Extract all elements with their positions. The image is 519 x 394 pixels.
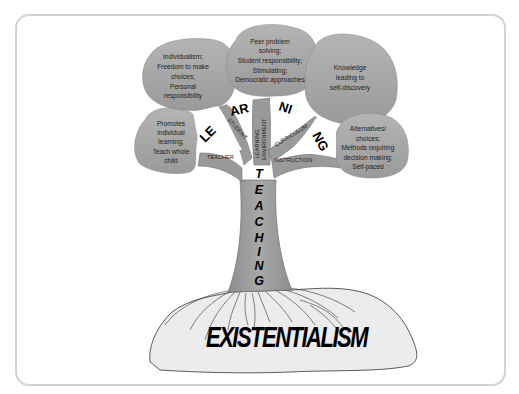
branch-label-instruction: INSTRUCTION <box>274 157 312 163</box>
svg-text:child: child <box>164 157 178 164</box>
svg-text:T: T <box>255 167 264 181</box>
svg-text:choices;: choices; <box>356 135 380 142</box>
svg-text:learning;: learning; <box>158 138 183 146</box>
branch-label-learning: LEARNING <box>254 129 260 158</box>
svg-text:self-discovery: self-discovery <box>330 84 371 92</box>
svg-text:Alternatives/: Alternatives/ <box>350 125 386 132</box>
svg-text:A: A <box>253 199 263 213</box>
svg-text:Peer problem: Peer problem <box>250 38 290 46</box>
svg-text:Stimulating;: Stimulating; <box>253 67 288 75</box>
svg-text:H: H <box>254 231 264 245</box>
svg-text:Freedom to make: Freedom to make <box>157 63 209 70</box>
svg-text:individual: individual <box>157 129 185 136</box>
svg-text:solving;: solving; <box>259 47 282 55</box>
svg-text:Promotes: Promotes <box>157 120 186 127</box>
svg-text:Student responsibility;: Student responsibility; <box>238 57 303 65</box>
roots-label-existentialism: EXISTENTIALISM <box>206 321 369 352</box>
svg-text:G: G <box>254 274 264 288</box>
svg-text:leading to: leading to <box>336 74 365 82</box>
svg-text:Teach whole: Teach whole <box>153 148 190 155</box>
svg-text:I: I <box>257 245 261 259</box>
svg-text:Democratic approaches: Democratic approaches <box>235 76 305 84</box>
branch-label-environment: ENVIRONMENT <box>261 118 267 160</box>
svg-text:Personal: Personal <box>170 83 197 90</box>
svg-text:C: C <box>254 215 264 229</box>
svg-text:Methods requiring: Methods requiring <box>342 144 395 152</box>
svg-text:E: E <box>255 183 264 197</box>
svg-text:Self-paced: Self-paced <box>352 163 384 171</box>
svg-text:N: N <box>254 259 264 273</box>
svg-text:choices;: choices; <box>171 73 195 80</box>
trunk-label-teaching: T E A C H I N G <box>253 167 264 288</box>
svg-text:responsibility: responsibility <box>164 92 203 100</box>
svg-text:Knowledge: Knowledge <box>334 64 367 72</box>
branch-label-teacher: TEACHER <box>207 154 234 160</box>
svg-text:Individualism;: Individualism; <box>163 53 203 60</box>
existentialism-tree-diagram: LE AR NI NG TEACHER STUDENT LEARNING ENV… <box>0 0 519 394</box>
svg-text:decision making;: decision making; <box>343 154 392 162</box>
